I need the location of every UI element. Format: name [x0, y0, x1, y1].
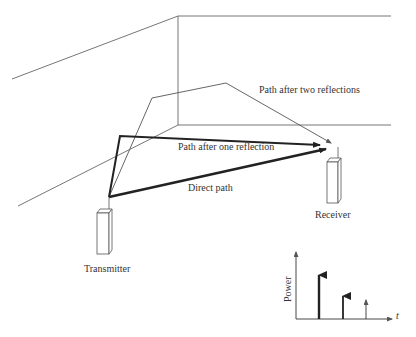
chart-y-label: Power	[282, 276, 293, 302]
chart-x-label: t	[396, 310, 399, 321]
receiver-tower-icon	[327, 147, 341, 203]
label-one-reflection: Path after one reflection	[178, 141, 274, 152]
power-delay-chart	[296, 252, 392, 319]
label-receiver: Receiver	[315, 209, 351, 220]
label-two-reflections: Path after two reflections	[259, 84, 360, 95]
label-transmitter: Transmitter	[84, 263, 130, 274]
label-direct-path: Direct path	[188, 182, 233, 193]
multipath-diagram: Path after two reflections Path after on…	[0, 0, 416, 337]
diagram-canvas	[0, 0, 416, 337]
ceiling-left-edge	[12, 16, 178, 79]
transmitter-tower-icon	[97, 197, 112, 254]
